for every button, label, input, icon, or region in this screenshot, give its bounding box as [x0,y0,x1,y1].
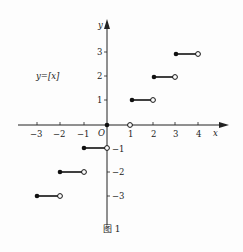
x-axis-label: x [213,128,218,138]
figure-caption: 图 1 [103,224,121,234]
x-tick-label: −1 [77,129,90,139]
y-tick-label: 2 [97,71,102,81]
function-label: y=[x] [35,71,60,81]
y-tick-label: −2 [112,167,125,177]
x-tick-label: 3 [173,129,178,139]
y-tick-label: −1 [112,144,125,154]
y-tick-label: −3 [112,191,125,201]
x-tick-label: 2 [151,129,156,139]
y-axis-label: y [97,20,103,30]
y-axis-arrow-icon [104,19,110,29]
x-axis-arrow-icon [219,122,229,128]
y-tick-label: 1 [97,95,102,105]
x-tick-label: 1 [128,129,133,139]
x-tick-label: 4 [196,129,201,139]
x-tick-label: −2 [53,129,66,139]
y-tick-label: 3 [97,47,102,57]
x-tick-label: −3 [30,129,43,139]
floor-function-graph: y x O y=[x] −3 −2 −1 1 2 3 4 1 2 3 −1 −2… [0,0,243,252]
origin-label: O [98,128,105,138]
